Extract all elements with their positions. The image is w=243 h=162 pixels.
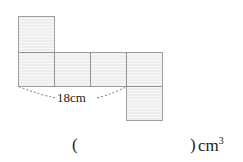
answer-close-paren: )	[190, 135, 196, 155]
face-top	[19, 17, 55, 53]
dimension-label: 18cm	[57, 90, 86, 106]
face-4	[127, 53, 163, 87]
face-1	[19, 53, 55, 87]
unit-exponent: 3	[219, 135, 224, 146]
face-bottom	[127, 87, 163, 121]
answer-open-paren: (	[72, 135, 78, 155]
answer-unit: cm3	[198, 135, 224, 156]
unit-text: cm	[198, 136, 219, 155]
face-3	[91, 53, 127, 87]
face-2	[55, 53, 91, 87]
